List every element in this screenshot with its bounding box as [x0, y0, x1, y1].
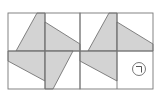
- panel-complete-pinwheel: [8, 13, 80, 89]
- piece-top-right: [45, 22, 80, 51]
- piece-bottom-right: [45, 51, 73, 89]
- marker-glyph-icon: [136, 67, 142, 73]
- pinwheel-puzzle-figure: [0, 0, 161, 97]
- missing-piece-marker: [133, 63, 146, 76]
- piece-top-left: [16, 13, 45, 51]
- marker-circle-icon: [133, 63, 146, 76]
- piece-bottom-left: [80, 51, 117, 81]
- piece-bottom-left: [8, 51, 45, 81]
- panel-incomplete-pinwheel: [80, 13, 153, 89]
- piece-top-right: [117, 22, 153, 51]
- piece-top-left: [88, 13, 117, 51]
